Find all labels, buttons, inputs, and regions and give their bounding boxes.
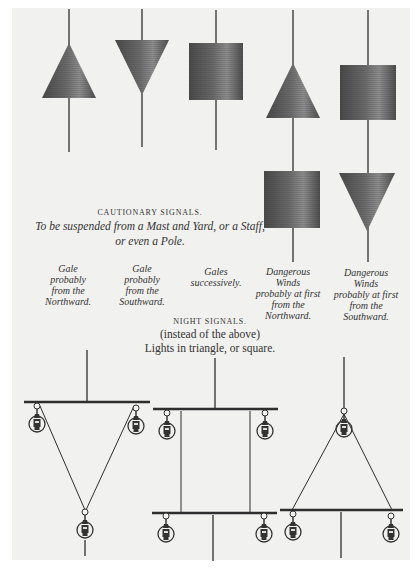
cautionary-subtitle-line1: To be suspended from a Mast and Yard, or… (30, 220, 270, 232)
cone-point-up-icon (42, 9, 96, 152)
cautionary-subtitle-line2: or even a Pole. (30, 235, 270, 247)
signal-label-dangerous-south: Dangerous Winds probably at first from t… (321, 267, 411, 322)
signal-label-dangerous-north: Dangerous Winds probably at first from t… (243, 266, 333, 321)
inverted-triangle-lights-icon (24, 350, 150, 556)
night-signals-line1: (instead of the above) (120, 328, 300, 340)
night-signals-heading: NIGHT SIGNALS. (140, 317, 280, 326)
cautionary-signals-heading: CAUTIONARY SIGNALS. (60, 208, 240, 217)
triangle-lights-icon (280, 357, 403, 558)
drum-and-cone-down-icon (339, 10, 396, 262)
cone-point-down-icon (115, 9, 169, 147)
cone-up-and-drum-icon (264, 10, 320, 262)
square-lights-icon (152, 358, 278, 561)
night-signals-line2: Lights in triangle, or square. (110, 342, 310, 354)
drum-icon (189, 10, 243, 150)
